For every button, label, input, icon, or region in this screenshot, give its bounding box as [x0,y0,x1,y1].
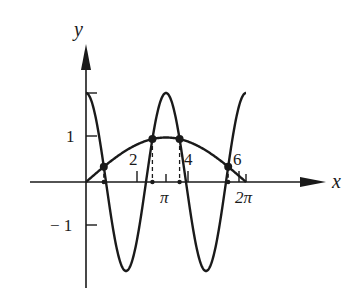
y-axis-label: y [72,18,83,41]
x-axis-arrow-icon [300,177,326,187]
x-tick-label-pi: π [160,188,169,207]
axis-foot-point [177,180,181,184]
graph: y x 1 − 1 2 4 6 π 2π [0,0,357,305]
intersection-point [224,163,232,171]
x-tick-label-4: 4 [184,150,193,169]
intersection-point [100,163,108,171]
x-tick-label-6: 6 [233,150,242,169]
x-axis-label: x [331,170,341,192]
y-tick-label-neg1: − 1 [50,216,72,235]
intersection-point [176,135,184,143]
intersection-point [148,135,156,143]
axis-foot-point [150,180,154,184]
x-tick-label-2pi: 2π [235,188,253,207]
y-axis-arrow-icon [81,44,91,70]
axis-foot-point [226,180,230,184]
x-tick-label-2: 2 [129,150,138,169]
y-tick-label-1: 1 [66,127,75,146]
axis-foot-point [102,180,106,184]
